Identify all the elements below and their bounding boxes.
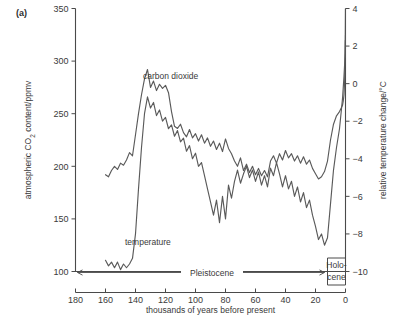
y2-axis-tick-label: −4	[353, 154, 363, 164]
x-axis-tick-label: 80	[220, 295, 230, 305]
x-axis-tick-label: 0	[343, 295, 348, 305]
y2-axis-tick-label: −8	[353, 229, 363, 239]
holocene-label-line2: cene	[327, 272, 346, 282]
figure-panel-a: (a) 100150200250300350420−2−4−6−8−101801…	[0, 0, 401, 320]
chart-svg: 100150200250300350420−2−4−6−8−1018016014…	[0, 0, 401, 320]
x-axis-tick-label: 160	[98, 295, 113, 305]
x-axis-tick-label: 20	[310, 295, 320, 305]
y2-axis-tick-label: 2	[353, 41, 358, 51]
x-axis-title: thousands of years before present	[146, 305, 276, 315]
y2-axis-title: relative temperature change/°C	[378, 81, 388, 199]
series-line-temperature	[106, 35, 346, 270]
y-axis-tick-label: 300	[53, 56, 68, 66]
y-axis-tick-label: 150	[53, 214, 68, 224]
y-axis-tick-label: 200	[53, 162, 68, 172]
y2-axis-tick-label: −6	[353, 192, 363, 202]
x-axis-tick-label: 100	[188, 295, 203, 305]
y2-axis-tick-label: −10	[353, 267, 368, 277]
y2-axis-tick-label: 4	[353, 4, 358, 14]
y-axis-tick-label: 250	[53, 109, 68, 119]
x-axis-tick-label: 180	[68, 295, 83, 305]
holocene-label-line1: Holo-	[326, 260, 346, 270]
y2-axis-tick-label: 0	[353, 79, 358, 89]
co2-curve-label: carbon dioxide	[143, 71, 199, 81]
y2-axis-tick-label: −2	[353, 116, 363, 126]
x-axis-tick-label: 60	[250, 295, 260, 305]
y-axis-tick-label: 350	[53, 4, 68, 14]
x-axis-tick-label: 40	[280, 295, 290, 305]
pleistocene-label: Pleistocene	[190, 268, 234, 278]
y-axis-title: atmospheric CO2 content/ppmv	[23, 80, 36, 199]
temperature-curve-label: temperature	[125, 237, 171, 247]
plot-frame	[76, 9, 346, 272]
x-axis-tick-label: 120	[158, 295, 173, 305]
x-axis-tick-label: 140	[128, 295, 143, 305]
y-axis-tick-label: 100	[53, 267, 68, 277]
